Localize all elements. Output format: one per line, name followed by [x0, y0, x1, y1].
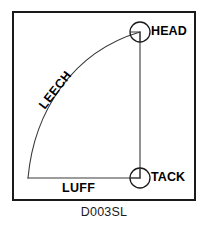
diagram-caption: D003SL — [0, 205, 208, 220]
luff-edge-label: LUFF — [62, 181, 95, 195]
sail-diagram-page: HEAD TACK LUFF LEECH D003SL — [0, 0, 208, 227]
head-corner-label: HEAD — [151, 24, 187, 38]
tack-corner-label: TACK — [151, 170, 185, 184]
